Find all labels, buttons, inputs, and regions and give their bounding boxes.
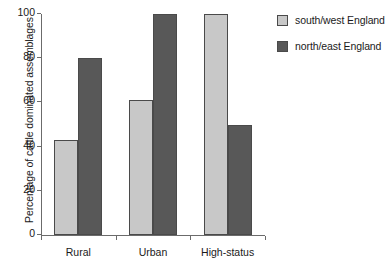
x-tick-mark: [116, 236, 117, 240]
bar: [78, 58, 102, 235]
y-tick-mark: [37, 146, 41, 147]
legend-label: south/west England: [295, 14, 385, 27]
y-tick-mark: [37, 101, 41, 102]
y-tick: 80: [41, 57, 42, 58]
y-tick: 60: [41, 101, 42, 102]
legend-label: north/east England: [295, 40, 381, 53]
x-category-label: Rural: [66, 246, 91, 259]
y-tick-mark: [37, 234, 41, 235]
y-axis-title: Percentage of cattle dominated assemblag…: [23, 0, 35, 240]
bar: [54, 140, 78, 235]
y-tick-label: 20: [5, 183, 35, 196]
y-axis-line: [41, 14, 42, 236]
y-tick: 100: [41, 13, 42, 14]
x-category-label: High-status: [201, 246, 254, 259]
x-axis-line: [41, 235, 265, 236]
x-category-label: Urban: [139, 246, 168, 259]
bar: [228, 125, 252, 236]
y-tick: 0: [41, 234, 42, 235]
y-tick-mark: [37, 13, 41, 14]
x-tick-mark: [190, 236, 191, 240]
legend-swatch-icon: [277, 15, 288, 26]
y-tick-label: 0: [5, 227, 35, 240]
legend-item[interactable]: north/east England: [277, 40, 376, 53]
y-tick-label: 60: [5, 94, 35, 107]
y-tick-mark: [37, 190, 41, 191]
y-tick-label: 100: [5, 6, 35, 19]
bar: [129, 100, 153, 235]
x-tick-mark: [41, 236, 42, 240]
chart-legend: south/west Englandnorth/east England: [277, 14, 376, 66]
x-tick-mark: [265, 236, 266, 240]
legend-swatch-icon: [277, 41, 288, 52]
y-tick: 40: [41, 146, 42, 147]
plot-area: 020406080100 RuralUrbanHigh-status: [41, 14, 265, 236]
legend-item[interactable]: south/west England: [277, 14, 376, 27]
y-tick-label: 80: [5, 50, 35, 63]
bar: [153, 14, 177, 235]
y-tick-mark: [37, 57, 41, 58]
bar: [204, 14, 228, 235]
y-tick-label: 40: [5, 139, 35, 152]
y-tick: 20: [41, 190, 42, 191]
